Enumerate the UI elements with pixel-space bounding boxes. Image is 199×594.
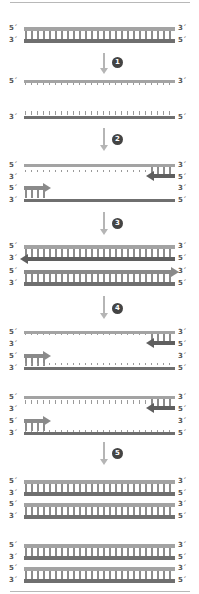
cycle2-block-a: [24, 331, 175, 370]
down-arrow-icon: [103, 212, 105, 230]
three-prime-label: 3´: [178, 329, 188, 336]
step-number-badge: 3: [112, 218, 123, 229]
five-prime-label: 5´: [178, 490, 188, 497]
three-prime-label: 3´: [9, 37, 19, 44]
five-prime-label: 5´: [9, 565, 19, 572]
down-arrow-icon: [103, 442, 105, 460]
three-prime-label: 3´: [9, 406, 19, 413]
five-prime-label: 5´: [9, 78, 19, 85]
five-prime-label: 5´: [9, 353, 19, 360]
three-prime-label: 3´: [9, 197, 19, 204]
three-prime-label: 3´: [178, 353, 188, 360]
five-prime-label: 5´: [9, 478, 19, 485]
step-number-badge: 4: [112, 303, 123, 314]
denatured-strands: [24, 80, 175, 119]
five-prime-label: 5´: [9, 418, 19, 425]
five-prime-label: 5´: [178, 280, 188, 287]
amplified-products: [24, 480, 175, 583]
three-prime-label: 3´: [9, 513, 19, 520]
three-prime-label: 3´: [178, 243, 188, 250]
five-prime-label: 5´: [9, 25, 19, 32]
five-prime-label: 5´: [9, 268, 19, 275]
five-prime-label: 5´: [178, 37, 188, 44]
five-prime-label: 5´: [9, 243, 19, 250]
arrowhead-icon: [100, 459, 108, 465]
arrowhead-icon: [100, 229, 108, 235]
three-prime-label: 3´: [178, 25, 188, 32]
extended-dsdna: [20, 245, 179, 286]
down-arrow-icon: [103, 53, 105, 69]
three-prime-label: 3´: [9, 430, 19, 437]
three-prime-label: 3´: [178, 78, 188, 85]
three-prime-label: 3´: [178, 162, 188, 169]
three-prime-label: 3´: [178, 501, 188, 508]
three-prime-label: 3´: [9, 255, 19, 262]
five-prime-label: 5´: [178, 197, 188, 204]
initial-dsdna: [24, 27, 175, 43]
arrowhead-icon: [100, 68, 108, 74]
step-number-badge: 2: [112, 134, 123, 145]
step-number-badge: 1: [112, 57, 123, 68]
three-prime-label: 3´: [9, 280, 19, 287]
down-arrow-icon: [103, 296, 105, 314]
five-prime-label: 5´: [9, 329, 19, 336]
down-arrow-icon: [103, 128, 105, 146]
three-prime-label: 3´: [178, 185, 188, 192]
three-prime-label: 3´: [178, 418, 188, 425]
three-prime-label: 3´: [9, 365, 19, 372]
dna-diagram: [0, 0, 199, 594]
annealed-primers: [24, 164, 175, 202]
three-prime-label: 3´: [9, 490, 19, 497]
arrowhead-icon: [100, 313, 108, 319]
three-prime-label: 3´: [178, 268, 188, 275]
five-prime-label: 5´: [178, 341, 188, 348]
arrowhead-icon: [100, 145, 108, 151]
cycle2-block-b: [24, 396, 175, 435]
five-prime-label: 5´: [178, 255, 188, 262]
three-prime-label: 3´: [9, 554, 19, 561]
three-prime-label: 3´: [9, 577, 19, 584]
step-number-badge: 5: [112, 448, 123, 459]
three-prime-label: 3´: [178, 542, 188, 549]
three-prime-label: 3´: [178, 394, 188, 401]
five-prime-label: 5´: [9, 185, 19, 192]
three-prime-label: 3´: [9, 114, 19, 121]
five-prime-label: 5´: [9, 162, 19, 169]
three-prime-label: 3´: [178, 565, 188, 572]
three-prime-label: 3´: [9, 174, 19, 181]
five-prime-label: 5´: [178, 114, 188, 121]
five-prime-label: 5´: [9, 394, 19, 401]
five-prime-label: 5´: [178, 365, 188, 372]
three-prime-label: 3´: [178, 478, 188, 485]
five-prime-label: 5´: [9, 542, 19, 549]
five-prime-label: 5´: [178, 513, 188, 520]
five-prime-label: 5´: [9, 501, 19, 508]
five-prime-label: 5´: [178, 577, 188, 584]
five-prime-label: 5´: [178, 554, 188, 561]
three-prime-label: 3´: [9, 341, 19, 348]
five-prime-label: 5´: [178, 430, 188, 437]
five-prime-label: 5´: [178, 406, 188, 413]
five-prime-label: 5´: [178, 174, 188, 181]
